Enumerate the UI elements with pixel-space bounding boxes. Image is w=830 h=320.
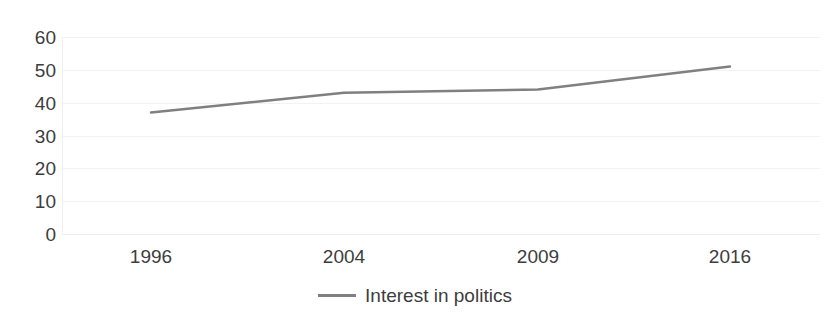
line-chart: 6050403020100 1996200420092016 Interest …	[0, 0, 830, 320]
plot-area	[63, 37, 820, 234]
y-tick-label-30: 30	[4, 126, 56, 145]
y-tick-label-10: 10	[4, 192, 56, 211]
x-tick-label-2009: 2009	[517, 247, 559, 266]
x-tick-label-1996: 1996	[130, 247, 172, 266]
y-tick-label-0: 0	[4, 225, 56, 244]
series-line-interest-in-politics	[151, 67, 730, 113]
y-axis-tick-labels: 6050403020100	[0, 0, 56, 320]
y-tick-label-20: 20	[4, 159, 56, 178]
gridline-0	[63, 234, 820, 235]
y-tick-label-50: 50	[4, 60, 56, 79]
legend-item[interactable]: Interest in politics	[318, 286, 512, 305]
chart-legend: Interest in politics	[0, 286, 830, 305]
legend-line-swatch-icon	[318, 294, 356, 297]
series-line-group	[63, 37, 820, 234]
x-tick-label-2016: 2016	[709, 247, 751, 266]
y-tick-label-60: 60	[4, 28, 56, 47]
y-tick-label-40: 40	[4, 93, 56, 112]
x-tick-label-2004: 2004	[323, 247, 365, 266]
legend-label: Interest in politics	[365, 286, 512, 305]
x-axis-tick-labels: 1996200420092016	[63, 247, 820, 273]
